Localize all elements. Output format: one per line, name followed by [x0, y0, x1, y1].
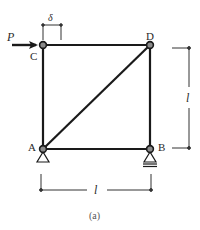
displacement-label: δ	[48, 13, 53, 23]
figure-caption: (a)	[89, 211, 100, 221]
node-label-D: D	[146, 31, 154, 42]
node-D	[147, 42, 154, 49]
member-AD	[43, 45, 150, 149]
displacement-bracket	[42, 24, 63, 40]
load-arrow-icon	[12, 41, 38, 49]
load-label: P	[7, 31, 14, 43]
node-label-A: A	[28, 142, 36, 153]
node-label-C: C	[30, 51, 37, 62]
height-dimension-label: l	[186, 92, 189, 104]
truss-drawing	[0, 0, 200, 230]
pin-support-icon	[37, 152, 49, 162]
node-label-B: B	[158, 142, 165, 153]
node-C	[40, 42, 47, 49]
node-A	[40, 146, 47, 153]
width-dimension-label: l	[94, 184, 97, 196]
truss-diagram: P δ C D A B l l (a)	[0, 0, 200, 230]
roller-support-icon	[143, 152, 157, 167]
truss-members	[43, 45, 150, 149]
node-B	[147, 146, 154, 153]
